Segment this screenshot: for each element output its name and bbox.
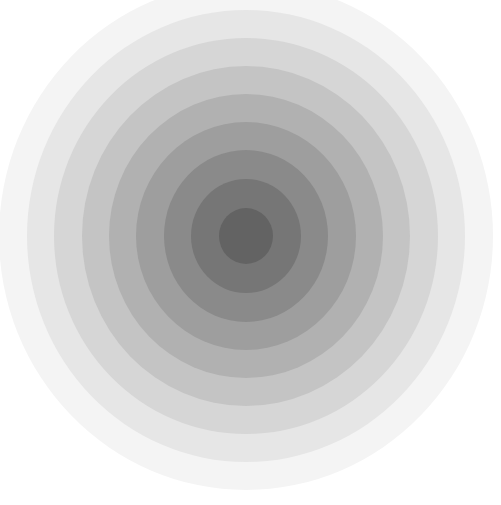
ring-9	[219, 208, 273, 264]
concentric-rings-figure	[0, 0, 501, 505]
rings-group	[0, 0, 493, 490]
